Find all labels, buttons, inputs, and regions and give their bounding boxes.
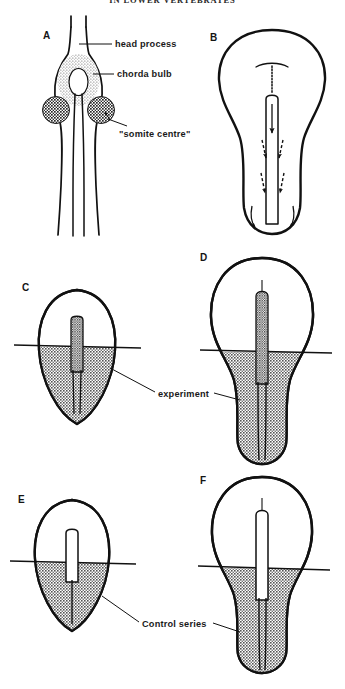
panel-e-drawing <box>10 500 139 643</box>
label-experiment: experiment <box>158 389 209 399</box>
figure-page: IN LOWER VERTEBRATES A B C D E F head pr… <box>0 0 345 689</box>
running-head: IN LOWER VERTEBRATES <box>0 0 345 4</box>
panel-b-drawing <box>219 30 325 234</box>
panel-letter-a: A <box>43 30 51 41</box>
panel-letter-d: D <box>200 252 208 263</box>
panel-letter-e: E <box>18 494 25 505</box>
panel-letter-b: B <box>210 32 218 43</box>
label-chorda-bulb: chorda bulb <box>117 69 172 79</box>
label-control-series: Control series <box>142 619 207 629</box>
panel-d-drawing <box>200 258 332 472</box>
panel-f-drawing <box>198 477 330 688</box>
label-head-process: head process <box>115 39 177 49</box>
label-somite-centre: "somite centre" <box>119 129 190 139</box>
panel-c-drawing <box>14 290 155 437</box>
panel-letter-f: F <box>200 475 206 486</box>
panel-a-drawing <box>43 16 128 236</box>
panel-letter-c: C <box>22 282 30 293</box>
figure-drawing <box>0 0 345 689</box>
